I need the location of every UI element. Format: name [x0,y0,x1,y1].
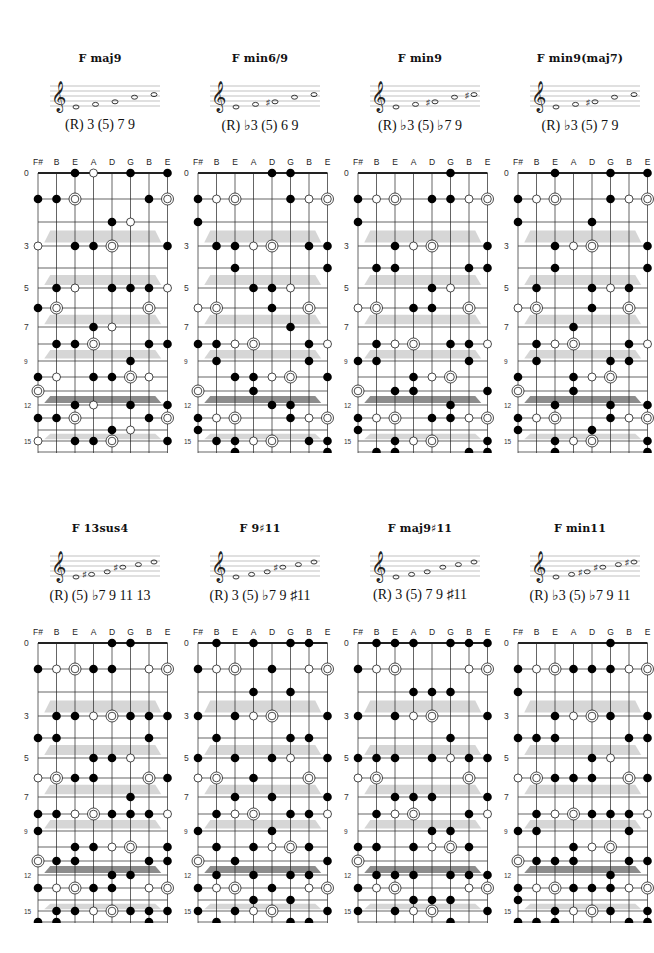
chord-tone-dot [231,448,240,453]
chord-tone-dot [126,871,135,880]
fret-number-label: 7 [344,322,349,332]
chord-tone-dot [305,242,314,251]
fret-number-label: 5 [24,283,29,293]
chord-tone-dot [194,414,203,423]
chord-tone-dot [446,340,455,349]
fret-number-label: 3 [504,711,509,721]
fret-inlay-band [364,866,481,873]
chord-tone-dot [606,401,615,410]
chord-tone-dot [643,857,652,866]
omitted-fifth-dot [127,426,135,434]
chord-tone-dot [212,357,221,366]
string-label: E [72,627,78,637]
chord-tone-dot [569,857,578,866]
string-label: E [72,157,78,167]
string-label: B [374,157,380,167]
fret-inlay-band [524,820,641,829]
omitted-fifth-dot [108,843,116,851]
string-label: E [232,157,238,167]
chord-tone-dot [108,373,117,382]
chord-tone-dot [89,884,98,893]
fret-number-label: 5 [344,753,349,763]
chord-title: F min6/9 [180,52,340,65]
chord-tone-dot [514,414,523,423]
chord-tone-dot [409,387,418,396]
chord-tone-dot [643,242,652,251]
chord-tone-dot [391,448,400,453]
chord-tone-dot [643,448,652,453]
chord-tone-dot [89,323,98,332]
chord-tone-dot [268,401,277,410]
chord-tone-dot [483,264,492,273]
fret-number-label: 7 [24,792,29,802]
chord-tone-dot [249,639,258,648]
chord-tone-dot [305,810,314,819]
interval-formula: (R) 3 (5) ♭7 9 ♯11 [180,587,340,604]
chord-tone-dot [551,712,560,721]
chord-tone-dot [194,884,203,893]
chord-tone-dot [286,810,295,819]
chord-tone-dot [108,884,117,893]
omitted-fifth-dot [588,373,596,381]
omitted-fifth-dot [305,414,313,422]
chord-tone-dot [34,734,43,743]
note-head-icon [112,100,118,104]
omitted-fifth-dot [71,284,79,292]
fret-inlay-band [524,434,641,440]
omitted-fifth-dot [164,284,172,292]
fret-number-label: 9 [504,358,508,365]
fret-inlay-band [44,904,161,910]
chord-tone-dot [305,340,314,349]
chord-tone-dot [643,734,652,743]
string-label: B [466,157,472,167]
chord-tone-dot [588,304,597,313]
chord-tone-dot [409,843,418,852]
fret-inlay-band [364,350,481,359]
string-label: B [466,627,472,637]
fret-number-label: 0 [344,168,349,178]
omitted-fifth-dot [250,242,258,250]
chord-tone-dot [323,754,332,763]
fret-number-label: 12 [184,402,192,409]
music-staff: 𝄞♯♯ [20,546,180,586]
chord-tone-dot [305,437,314,446]
chord-tone-dot [249,843,258,852]
chord-tone-dot [569,323,578,332]
fret-inlay-band [44,745,161,755]
omitted-fifth-dot [53,665,61,673]
string-label: F# [353,157,363,167]
chord-tone-dot [372,871,381,880]
omitted-fifth-dot [373,414,381,422]
omitted-fifth-dot [588,843,596,851]
chord-tone-dot [52,284,61,293]
chord-tone-dot [569,665,578,674]
omitted-fifth-dot [570,437,578,445]
omitted-fifth-dot [231,810,239,818]
chord-tone-dot [286,323,295,332]
music-staff: 𝄞♯ [180,76,340,116]
chord-tone-dot [34,304,43,313]
chord-tone-dot [126,793,135,802]
chord-tone-dot [231,437,240,446]
fret-inlay-band [364,396,481,403]
chord-tone-dot [428,754,437,763]
fret-number-label: 0 [24,168,29,178]
chord-tone-dot [52,195,61,204]
chord-tone-dot [514,688,523,697]
chord-tone-dot [249,373,258,382]
chord-tone-dot [34,810,43,819]
fret-number-label: 3 [184,711,189,721]
chord-tone-dot [71,712,80,721]
fret-number-label: 3 [24,241,29,251]
chord-tone-dot [268,284,277,293]
chord-tone-dot [643,264,652,273]
note-head-icon [553,575,559,579]
chord-tone-dot [163,242,172,251]
chord-tone-dot [551,857,560,866]
chord-tone-dot [551,734,560,743]
chord-tone-dot [428,304,437,313]
string-label: E [165,157,171,167]
fretboard: F#BEADGBE03579121517 [180,623,340,923]
omitted-fifth-dot [287,284,295,292]
chord-tone-dot [588,754,597,763]
